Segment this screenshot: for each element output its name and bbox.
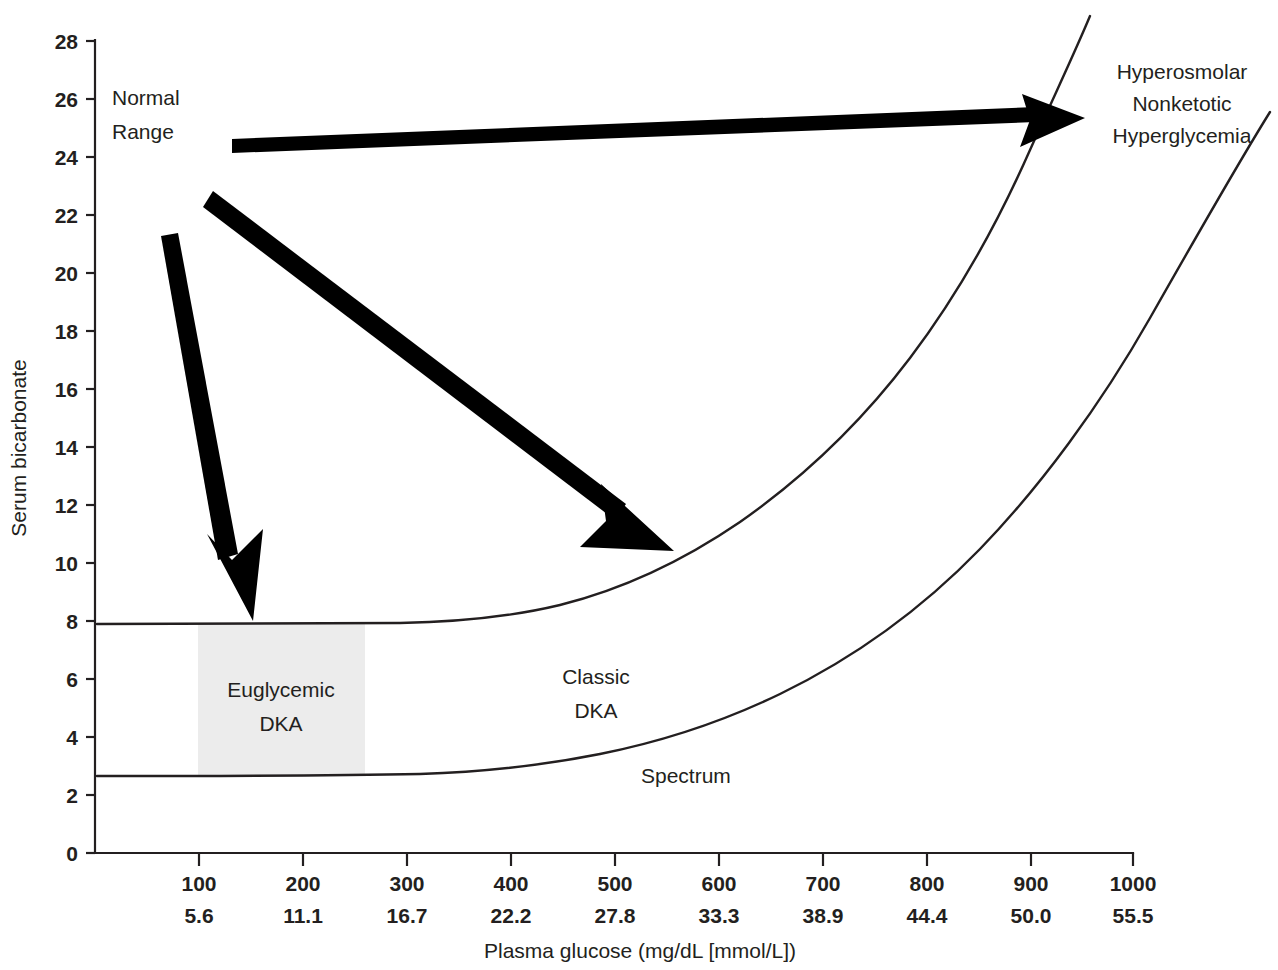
y-tick-label-2: 2 <box>66 784 78 807</box>
y-tick-label-0: 0 <box>66 842 78 865</box>
y-axis-ticks <box>86 41 95 853</box>
x-tick-label-mgdl-100: 100 <box>181 872 216 895</box>
annotation-euglycemic-dka-line1: Euglycemic <box>227 678 334 701</box>
annotation-spectrum: Spectrum <box>641 764 731 787</box>
x-tick-label-mgdl-200: 200 <box>285 872 320 895</box>
x-tick-label-mmol-5-6: 5.6 <box>184 904 213 927</box>
y-tick-label-14: 14 <box>55 436 79 459</box>
annotation-normal-range-line1: Normal <box>112 86 180 109</box>
x-tick-label-mmol-33-3: 33.3 <box>699 904 740 927</box>
x-tick-label-mgdl-300: 300 <box>389 872 424 895</box>
annotation-hyperosmolar-line1: Hyperosmolar <box>1117 60 1248 83</box>
y-tick-label-6: 6 <box>66 668 78 691</box>
y-tick-label-24: 24 <box>55 146 79 169</box>
y-tick-label-18: 18 <box>55 320 79 343</box>
y-tick-label-20: 20 <box>55 262 78 285</box>
arrow-to-euglycemic-dka <box>161 233 263 621</box>
annotation-classic-dka-line2: DKA <box>574 699 617 722</box>
x-tick-label-mmol-22-2: 22.2 <box>491 904 532 927</box>
x-tick-label-mgdl-600: 600 <box>701 872 736 895</box>
x-axis-title: Plasma glucose (mg/dL [mmol/L]) <box>484 939 796 962</box>
x-tick-label-mgdl-400: 400 <box>493 872 528 895</box>
y-tick-label-16: 16 <box>55 378 78 401</box>
y-tick-label-8: 8 <box>66 610 78 633</box>
x-tick-label-mmol-38-9: 38.9 <box>803 904 844 927</box>
upper-spectrum-curve <box>97 16 1090 624</box>
y-tick-label-28: 28 <box>55 30 79 53</box>
x-tick-label-mgdl-800: 800 <box>909 872 944 895</box>
plot-area: 0 2 4 6 8 10 12 14 16 18 20 22 24 26 28 … <box>0 0 1278 970</box>
y-tick-label-4: 4 <box>66 726 78 749</box>
y-tick-label-22: 22 <box>55 204 78 227</box>
annotation-normal-range-line2: Range <box>112 120 174 143</box>
y-tick-label-12: 12 <box>55 494 78 517</box>
annotation-hyperosmolar-line3: Hyperglycemia <box>1113 124 1252 147</box>
x-tick-label-mmol-55-5: 55.5 <box>1113 904 1154 927</box>
x-tick-label-mmol-16-7: 16.7 <box>387 904 428 927</box>
y-axis-title: Serum bicarbonate <box>7 359 30 536</box>
x-tick-label-mgdl-500: 500 <box>597 872 632 895</box>
y-tick-label-26: 26 <box>55 88 78 111</box>
x-tick-label-mmol-50-0: 50.0 <box>1011 904 1052 927</box>
y-tick-label-10: 10 <box>55 552 78 575</box>
annotation-classic-dka-line1: Classic <box>562 665 630 688</box>
x-axis-ticks <box>199 853 1133 866</box>
x-tick-label-mmol-44-4: 44.4 <box>907 904 948 927</box>
x-tick-label-mgdl-700: 700 <box>805 872 840 895</box>
x-tick-label-mmol-11-1: 11.1 <box>283 904 323 927</box>
annotation-hyperosmolar-line2: Nonketotic <box>1132 92 1231 115</box>
arrow-to-hyperosmolar-nonketotic-hyperglycemia <box>232 94 1085 153</box>
x-tick-label-mgdl-1000: 1000 <box>1110 872 1157 895</box>
x-tick-label-mgdl-900: 900 <box>1013 872 1048 895</box>
annotation-euglycemic-dka-line2: DKA <box>259 712 302 735</box>
x-tick-label-mmol-27-8: 27.8 <box>595 904 636 927</box>
dka-spectrum-figure: 0 2 4 6 8 10 12 14 16 18 20 22 24 26 28 … <box>0 0 1278 970</box>
arrow-to-classic-dka <box>203 191 674 551</box>
